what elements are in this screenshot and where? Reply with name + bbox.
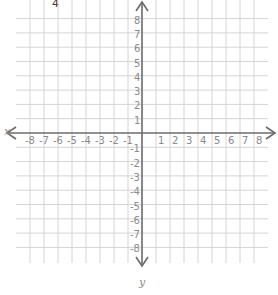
x-tick-label: 3 (186, 136, 192, 146)
y-tick-label: 1 (134, 116, 140, 126)
x-tick-label: 2 (172, 136, 178, 146)
x-axis-label: x (4, 125, 10, 138)
x-tick-label: -8 (25, 136, 35, 146)
x-tick-label: -3 (95, 136, 105, 146)
x-tick-label: 1 (158, 136, 164, 146)
y-tick-label: -2 (130, 159, 140, 169)
y-tick-label: 6 (134, 44, 140, 54)
y-axis-label: y (139, 276, 145, 289)
y-tick-label: 2 (134, 101, 140, 111)
x-tick-label: 4 (200, 136, 206, 146)
x-tick-label: -6 (53, 136, 63, 146)
y-tick-label: -1 (130, 144, 140, 154)
x-tick-label: 5 (214, 136, 220, 146)
x-tick-label: 8 (256, 136, 262, 146)
x-tick-label: 6 (228, 136, 234, 146)
x-tick-label: -5 (67, 136, 77, 146)
y-tick-label: 3 (134, 87, 140, 97)
y-tick-label: -4 (130, 187, 140, 197)
y-tick-label: -8 (130, 244, 140, 254)
y-tick-label: -5 (130, 202, 140, 212)
y-tick-label: 8 (134, 16, 140, 26)
x-tick-label: 7 (242, 136, 248, 146)
y-tick-label: 4 (134, 73, 140, 83)
y-tick-label: -7 (130, 230, 140, 240)
x-tick-label: -4 (81, 136, 91, 146)
y-tick-label: -3 (130, 173, 140, 183)
x-tick-label: -7 (39, 136, 49, 146)
y-tick-label: 5 (134, 59, 140, 69)
x-tick-label: -2 (109, 136, 119, 146)
y-tick-label: -6 (130, 216, 140, 226)
y-tick-label: 7 (134, 30, 140, 40)
